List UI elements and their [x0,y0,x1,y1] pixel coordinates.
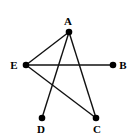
label-a: A [64,15,72,27]
node-d [39,115,46,122]
label-b: B [119,59,127,71]
edge-a-d [42,32,69,118]
edges [26,32,113,118]
label-d: D [37,123,45,134]
edge-a-c [69,32,96,118]
node-e [23,62,30,69]
node-b [110,62,117,69]
edge-a-e [26,32,69,65]
nodes [23,29,117,122]
edge-e-c [26,65,96,118]
node-c [93,115,100,122]
label-c: C [93,123,101,134]
graph-diagram: A B C D E [0,0,132,134]
label-e: E [10,59,17,71]
node-a [66,29,73,36]
